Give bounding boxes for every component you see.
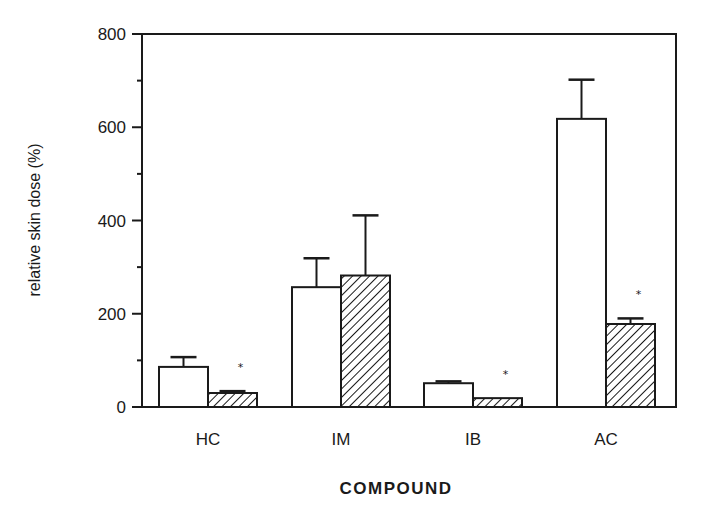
y-tick-label: 400 xyxy=(98,212,126,231)
significance-star: * xyxy=(238,361,244,374)
hatched-bar xyxy=(341,276,390,407)
open-bar xyxy=(292,287,341,407)
y-tick-label: 0 xyxy=(117,398,126,417)
x-axis-label: COMPOUND xyxy=(339,479,452,498)
x-category-label: IM xyxy=(332,430,351,449)
y-tick-label: 800 xyxy=(98,25,126,44)
hatched-bar xyxy=(606,324,655,407)
bar-chart: 0200400600800 *** HCIMIBAC relative skin… xyxy=(0,0,710,519)
x-category-label: IB xyxy=(465,430,481,449)
bar-group-im xyxy=(292,215,390,407)
significance-star: * xyxy=(636,288,642,301)
bar-group-ib xyxy=(424,381,522,407)
bars: *** xyxy=(159,80,655,407)
x-category-label: AC xyxy=(594,430,618,449)
open-bar xyxy=(424,383,473,407)
open-bar xyxy=(159,367,208,407)
x-category-label: HC xyxy=(196,430,221,449)
y-tick-label: 600 xyxy=(98,118,126,137)
y-axis-label: relative skin dose (%) xyxy=(26,144,43,297)
open-bar xyxy=(557,119,606,407)
y-tick-label: 200 xyxy=(98,305,126,324)
y-axis: 0200400600800 xyxy=(98,25,142,417)
hatched-bar xyxy=(473,398,522,407)
hatched-bar xyxy=(208,393,257,407)
bar-group-ac xyxy=(557,80,655,407)
x-axis: HCIMIBAC xyxy=(196,430,618,449)
significance-star: * xyxy=(503,368,509,381)
